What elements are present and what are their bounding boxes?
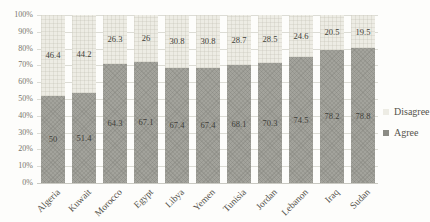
segment-disagree: 30.8 — [165, 15, 189, 68]
legend-item-agree: Agree — [383, 127, 430, 138]
y-tick-label: 50% — [1, 94, 33, 103]
segment-disagree: 26.3 — [103, 15, 127, 64]
y-tick-label: 30% — [1, 128, 33, 137]
plot-area: 46.45044.251.426.364.32667.130.867.430.8… — [37, 15, 378, 184]
y-tick-label: 20% — [1, 144, 33, 153]
segment-disagree: 24.6 — [289, 15, 313, 57]
legend-swatch-disagree-icon — [383, 109, 389, 115]
segment-disagree: 28.7 — [227, 15, 251, 65]
segment-disagree: 44.2 — [72, 15, 96, 93]
x-label-algeria: Algeria — [0, 187, 62, 222]
segment-disagree: 20.5 — [320, 15, 344, 50]
chart: 100%90%80%70%60%50%40%30%20%10%0% 46.450… — [0, 0, 430, 222]
bar-yemen: 30.867.4 — [196, 15, 220, 183]
y-tick-label: 0% — [1, 178, 33, 187]
bar-kuwait: 44.251.4 — [72, 15, 96, 183]
segment-agree: 67.4 — [165, 68, 189, 183]
bar-jordan: 28.570.3 — [258, 15, 282, 183]
segment-agree: 78.2 — [320, 50, 344, 183]
bar-lebanon: 24.674.5 — [289, 15, 313, 183]
legend-swatch-agree-icon — [383, 130, 389, 136]
segment-agree: 70.3 — [258, 63, 282, 183]
y-tick-label: 70% — [1, 60, 33, 69]
segment-agree: 68.1 — [227, 65, 251, 183]
segment-agree: 50 — [41, 96, 65, 183]
legend-item-disagree: Disagree — [383, 106, 430, 117]
bar-morocco: 26.364.3 — [103, 15, 127, 183]
segment-agree: 74.5 — [289, 57, 313, 183]
bar-sudan: 19.578.8 — [351, 15, 375, 183]
legend-label-agree: Agree — [394, 127, 418, 138]
bar-libya: 30.867.4 — [165, 15, 189, 183]
bar-iraq: 20.578.2 — [320, 15, 344, 183]
segment-agree: 67.4 — [196, 68, 220, 183]
segment-disagree: 30.8 — [196, 15, 220, 68]
segment-agree: 64.3 — [103, 64, 127, 183]
bar-algeria: 46.450 — [41, 15, 65, 183]
legend: Disagree Agree — [383, 106, 430, 148]
segment-disagree: 19.5 — [351, 15, 375, 48]
y-tick-label: 60% — [1, 77, 33, 86]
legend-label-disagree: Disagree — [394, 106, 430, 117]
y-tick-label: 100% — [1, 10, 33, 19]
y-tick-label: 10% — [1, 161, 33, 170]
segment-agree: 67.1 — [134, 62, 158, 183]
bar-tunisia: 28.768.1 — [227, 15, 251, 183]
y-tick-label: 90% — [1, 27, 33, 36]
segment-agree: 78.8 — [351, 48, 375, 183]
segment-disagree: 28.5 — [258, 15, 282, 63]
bar-egypt: 2667.1 — [134, 15, 158, 183]
y-tick-label: 80% — [1, 44, 33, 53]
segment-agree: 51.4 — [72, 93, 96, 183]
y-tick-label: 40% — [1, 111, 33, 120]
segment-disagree: 46.4 — [41, 15, 65, 96]
segment-disagree: 26 — [134, 15, 158, 62]
